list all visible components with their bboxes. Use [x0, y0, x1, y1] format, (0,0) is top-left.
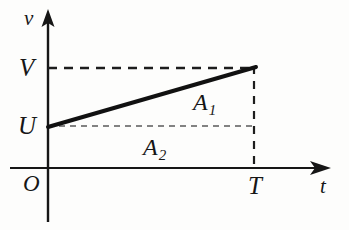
- time-end-label: T: [248, 173, 262, 198]
- area-rectangle-label: A2: [143, 135, 165, 159]
- graph-canvas: [0, 0, 349, 230]
- velocity-line: [48, 67, 256, 127]
- area-triangle-letter: A: [193, 89, 208, 115]
- area-triangle-subscript: 1: [209, 102, 217, 118]
- initial-velocity-label: U: [18, 113, 36, 138]
- time-axis-label: t: [320, 176, 326, 197]
- area-rectangle-subscript: 2: [159, 147, 167, 163]
- area-triangle-label: A1: [193, 90, 215, 114]
- final-velocity-label: V: [19, 55, 34, 80]
- area-rectangle-letter: A: [143, 134, 158, 160]
- origin-label: O: [23, 172, 40, 195]
- velocity-time-figure: v t O V U T A1 A2: [0, 0, 349, 230]
- velocity-axis-label: v: [24, 8, 33, 29]
